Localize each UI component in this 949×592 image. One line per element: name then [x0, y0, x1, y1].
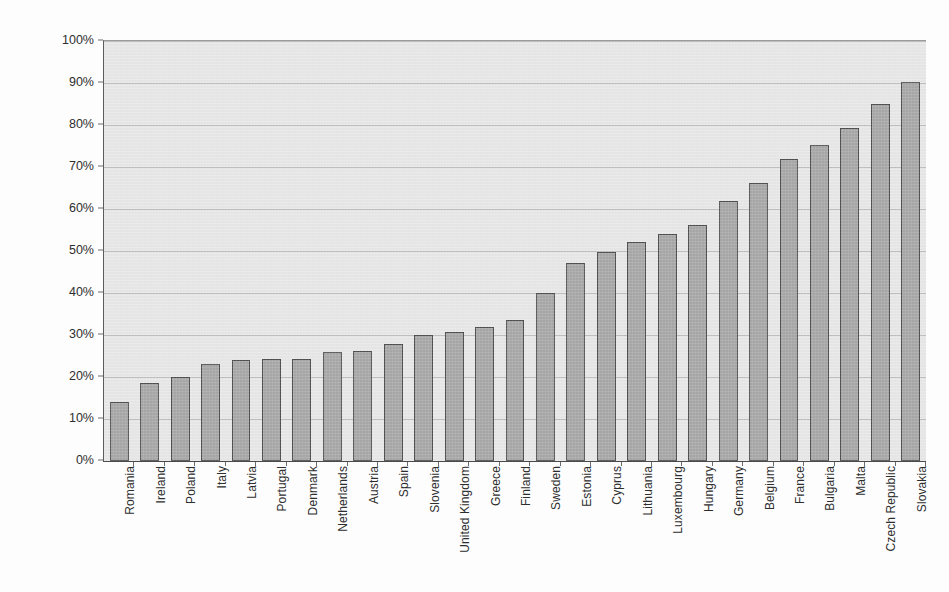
- x-tick-label: Slovakia: [915, 466, 929, 512]
- x-tick-label: Cyprus: [610, 466, 624, 505]
- y-tick-label: 80%: [69, 117, 94, 131]
- bar: [475, 327, 494, 461]
- x-tick-label: Greece: [489, 466, 503, 506]
- y-axis-tick-labels: 0%10%20%30%40%50%60%70%80%90%100%: [50, 40, 98, 460]
- y-tick-label: 20%: [69, 369, 94, 383]
- x-tick-label: France: [793, 466, 807, 504]
- bar: [445, 332, 464, 461]
- bar-chart: % of area farmed by tenants 0%10%20%30%4…: [0, 0, 949, 592]
- x-tick-label: Spain: [397, 466, 411, 497]
- bar: [901, 82, 920, 461]
- x-tick-label: Portugal: [275, 466, 289, 512]
- x-tick-label: Lithuania: [641, 466, 655, 516]
- bar: [262, 359, 281, 461]
- x-tick-label: Hungary: [702, 466, 716, 512]
- bar: [627, 242, 646, 461]
- bar: [171, 377, 190, 461]
- bar: [688, 225, 707, 461]
- bar: [871, 104, 890, 461]
- y-tick-label: 30%: [69, 327, 94, 341]
- bar: [597, 252, 616, 461]
- bar: [292, 359, 311, 461]
- x-tick-label: Poland: [184, 466, 198, 504]
- bar: [140, 383, 159, 461]
- x-tick-label: Italy: [215, 466, 229, 489]
- plot-area: [103, 40, 926, 462]
- x-tick-label: Luxembourg: [671, 466, 685, 534]
- bar-series: [104, 41, 926, 461]
- y-tick-label: 90%: [69, 75, 94, 89]
- bar: [840, 128, 859, 461]
- bar: [719, 201, 738, 461]
- x-tick-label: Czech Republic: [884, 466, 898, 551]
- x-tick-label: Sweden: [549, 466, 563, 510]
- y-tick-label: 100%: [62, 33, 94, 47]
- x-tick-label: Estonia: [580, 466, 594, 507]
- bar: [323, 352, 342, 461]
- bar: [749, 183, 768, 461]
- x-tick-label: Latvia: [245, 466, 259, 499]
- y-tick-label: 50%: [69, 243, 94, 257]
- x-tick-label: Ireland: [154, 466, 168, 503]
- x-tick-label: United Kingdom: [458, 466, 472, 553]
- x-tick-label: Austria: [367, 466, 381, 504]
- x-tick-label: Bulgaria: [823, 466, 837, 511]
- bar: [536, 293, 555, 461]
- x-tick-label: Romania: [123, 466, 137, 515]
- bar: [110, 402, 129, 461]
- y-tick-label: 0%: [76, 453, 94, 467]
- x-tick-label: Netherlands: [336, 466, 350, 532]
- x-tick-label: Germany: [732, 466, 746, 516]
- x-axis-category-labels: RomaniaIrelandPolandItalyLatviaPortugalD…: [103, 462, 925, 590]
- x-tick-label: Finland: [519, 466, 533, 506]
- x-tick-label: Slovenia: [428, 466, 442, 513]
- x-tick-label: Denmark: [306, 466, 320, 515]
- bar: [201, 364, 220, 461]
- bar: [506, 320, 525, 461]
- x-tick-label: Belgium: [763, 466, 777, 510]
- bar: [810, 145, 829, 461]
- y-tick-label: 40%: [69, 285, 94, 299]
- y-tick-label: 10%: [69, 411, 94, 425]
- bar: [658, 234, 677, 461]
- bar: [353, 351, 372, 461]
- y-tick-label: 60%: [69, 201, 94, 215]
- bar: [566, 263, 585, 461]
- bar: [384, 344, 403, 461]
- bar: [232, 360, 251, 461]
- y-tick-label: 70%: [69, 159, 94, 173]
- bar: [780, 159, 799, 461]
- bar: [414, 335, 433, 461]
- x-tick-label: Malta: [854, 466, 868, 496]
